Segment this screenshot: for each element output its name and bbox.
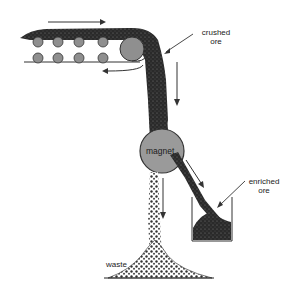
- drive-pulley: [120, 37, 144, 61]
- waste-pile: [108, 240, 212, 278]
- conveyor-direction-arrow: [48, 19, 106, 25]
- magnetic-separation-diagram: crushed ore magnet enriched ore waste: [0, 0, 301, 292]
- crushed-ore-label-line1: crushed: [196, 28, 236, 37]
- return-direction-arrow: [102, 65, 143, 74]
- enriched-ore-label-line1: enriched: [244, 177, 284, 186]
- waste-label: waste: [106, 260, 136, 269]
- enriched-ore-label-line2: ore: [244, 186, 284, 195]
- enriched-ore-stream: [170, 152, 222, 222]
- enriched-ore-pointer: [217, 181, 245, 208]
- crushed-ore-pointer: [164, 34, 193, 54]
- enriched-ore-label: enriched ore: [244, 177, 284, 195]
- collection-bin: [192, 197, 232, 241]
- crushed-ore-label-line2: ore: [196, 37, 236, 46]
- crushed-ore-label: crushed ore: [196, 28, 236, 46]
- magnet-label: magnet: [146, 146, 174, 156]
- ore-on-belt: [20, 28, 168, 150]
- waste-direction-arrow: [160, 178, 166, 219]
- fall-direction-arrow: [174, 62, 180, 106]
